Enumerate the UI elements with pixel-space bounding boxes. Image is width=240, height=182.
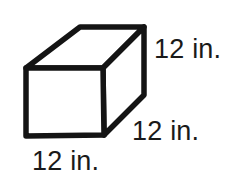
cube-faces: [26, 27, 144, 136]
dimension-label-width: 12 in.: [32, 148, 99, 175]
cube-front-face: [26, 68, 104, 136]
dimension-label-depth: 12 in.: [132, 118, 199, 145]
figure-canvas: 12 in. 12 in. 12 in.: [0, 0, 240, 182]
dimension-label-height: 12 in.: [154, 36, 221, 63]
